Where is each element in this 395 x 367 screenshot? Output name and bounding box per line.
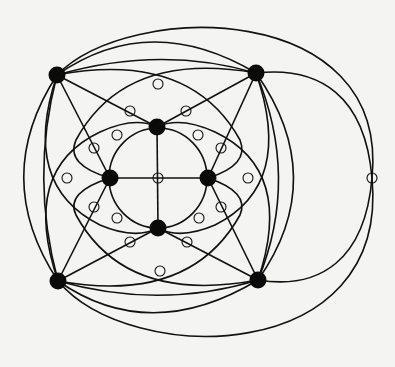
crossing-marker <box>112 130 122 140</box>
vertex-L <box>102 170 119 187</box>
vertex-TL <box>49 67 66 84</box>
edge-BL-TR-wrap <box>58 72 373 336</box>
crossing-marker <box>193 130 203 140</box>
crossing-marker <box>194 213 204 223</box>
edge-TL-BR-wrap <box>57 28 373 282</box>
edge-TL-BL-inner <box>44 75 58 281</box>
edge-BR-R <box>208 178 258 280</box>
crossing-marker <box>62 173 72 183</box>
graph-diagram <box>0 0 395 367</box>
vertex-BR <box>250 272 267 289</box>
vertex-TR <box>248 65 265 82</box>
crossing-marker <box>112 213 122 223</box>
crossing-marker <box>153 79 163 89</box>
edges <box>24 28 373 337</box>
edge-TL-TR-mid <box>57 59 256 75</box>
vertex-T <box>149 119 166 136</box>
vertex-R <box>200 170 217 187</box>
crossing-marker <box>155 266 165 276</box>
vertex-B <box>150 220 167 237</box>
crossing-marker <box>243 173 253 183</box>
edge-TR-R <box>208 73 256 178</box>
vertex-BL <box>50 273 67 290</box>
edge-BL-BR-mid <box>58 280 258 295</box>
